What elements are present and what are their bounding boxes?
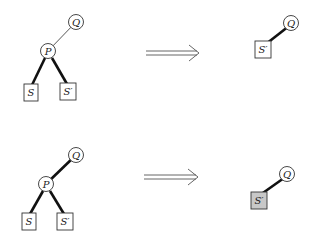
row1-after-tree: Q S′ bbox=[255, 16, 299, 59]
node-p-label: P bbox=[42, 179, 50, 190]
row1-implies-arrow bbox=[146, 45, 199, 61]
node-s-label: S bbox=[26, 216, 33, 227]
row2-before-tree: Q P S S′ bbox=[22, 148, 84, 231]
node-sprime-label: S′ bbox=[258, 44, 268, 55]
node-s-label: S bbox=[28, 87, 35, 98]
row1-before-tree: Q P S S′ bbox=[24, 15, 84, 102]
node-sprime-label: S′ bbox=[60, 216, 70, 227]
edge-p-sprime-thick bbox=[50, 191, 64, 214]
node-q-label: Q bbox=[283, 169, 291, 180]
node-q-label: Q bbox=[287, 18, 295, 29]
node-q-label: Q bbox=[72, 17, 80, 28]
diagram-canvas: Q P S S′ Q S′ Q P S S′ bbox=[0, 0, 315, 240]
node-sprime-label: S′ bbox=[254, 195, 264, 206]
edge-p-s-thick bbox=[32, 58, 45, 85]
row2-implies-arrow bbox=[144, 169, 198, 185]
row2-after-tree: Q S′ bbox=[251, 167, 295, 210]
node-q-label: Q bbox=[72, 150, 80, 161]
edge-p-sprime-thick bbox=[52, 58, 67, 84]
node-p-label: P bbox=[44, 46, 52, 57]
node-sprime-label: S′ bbox=[63, 86, 73, 97]
edge-p-s-thick bbox=[30, 191, 43, 214]
